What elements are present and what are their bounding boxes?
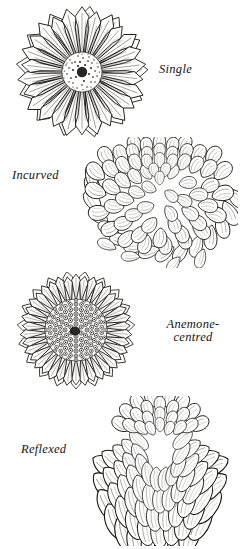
petal-crown-top — [109, 396, 212, 438]
figure-label-incurved: Incurved — [12, 169, 59, 182]
figure-label-anemone-centred: Anemone- centred — [155, 318, 231, 344]
illustration-plate: Single — [0, 0, 240, 549]
figure-label-reflexed: Reflexed — [21, 443, 66, 456]
anemone-centred-flower-drawing — [6, 272, 146, 390]
flower-figure-single — [14, 4, 150, 138]
single-flower-drawing — [14, 4, 150, 138]
disc-floret-cushion — [45, 299, 107, 361]
label-line-2: centred — [173, 330, 212, 344]
reflexed-flower-drawing — [82, 396, 238, 546]
label-line-1: Anemone- — [166, 317, 219, 331]
disc-floret-center — [62, 52, 102, 92]
flower-figure-incurved — [82, 137, 238, 268]
figure-label-single: Single — [159, 63, 192, 76]
flower-figure-anemone-centred — [6, 272, 146, 390]
flower-figure-reflexed — [82, 396, 238, 546]
incurved-flower-drawing — [82, 137, 238, 268]
